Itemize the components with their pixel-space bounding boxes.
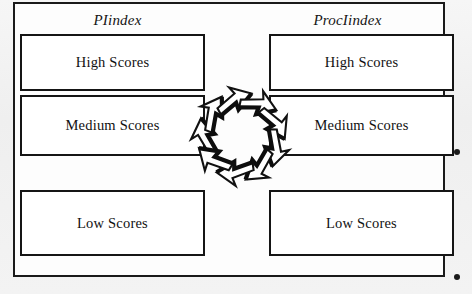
column-header-left: PIindex	[25, 12, 210, 29]
column-header-right: ProcIindex	[255, 12, 440, 29]
score-box-label: Medium Scores	[314, 117, 408, 134]
diagram-frame: PIindex ProcIindex High Scores Medium Sc…	[13, 2, 445, 277]
score-box-label: Medium Scores	[65, 117, 159, 134]
score-box-label: High Scores	[325, 54, 398, 71]
circular-arrows-graphic	[177, 72, 305, 200]
score-box-label: Low Scores	[326, 215, 397, 232]
margin-dot-upper	[454, 149, 460, 155]
score-box-label: High Scores	[76, 54, 149, 71]
circular-arrows-icon	[177, 72, 305, 200]
margin-dot-lower	[454, 274, 460, 280]
score-box-label: Low Scores	[77, 215, 148, 232]
